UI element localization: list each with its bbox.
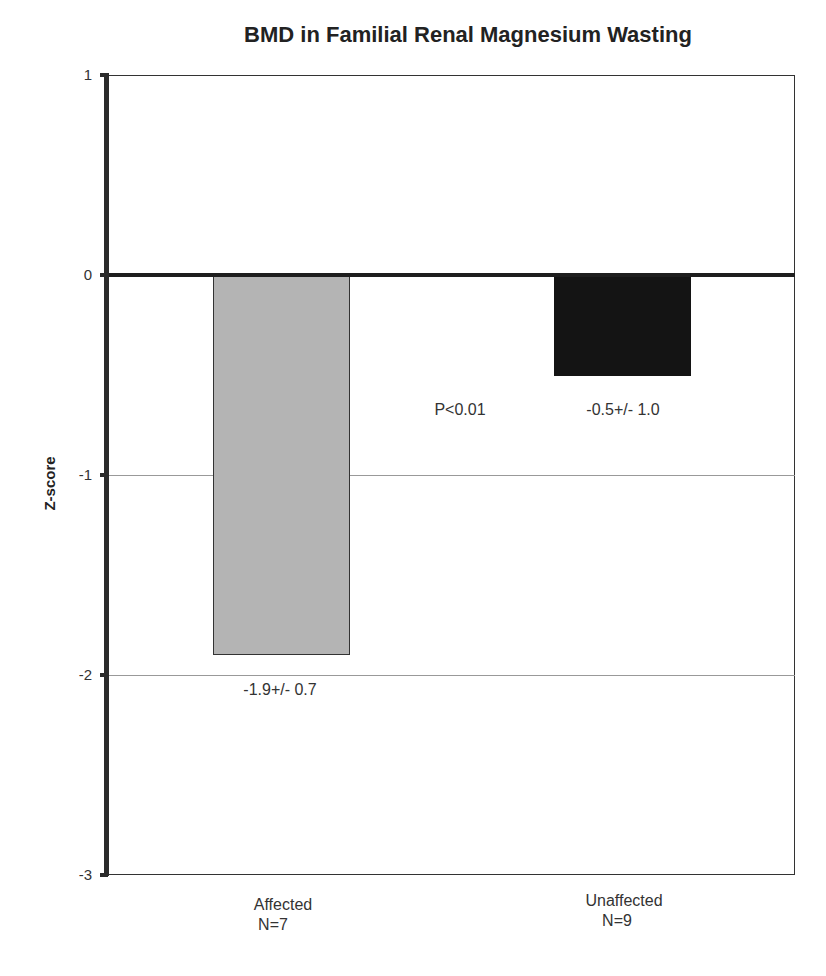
zero-line	[104, 273, 795, 277]
y-tick	[100, 73, 108, 77]
value-label-affected: -1.9+/- 0.7	[200, 681, 360, 699]
p-value-annotation: P<0.01	[410, 401, 510, 419]
category-n-unaffected: N=9	[567, 912, 667, 930]
chart-title: BMD in Familial Renal Magnesium Wasting	[110, 22, 826, 48]
gridline-minus-2	[108, 675, 795, 676]
y-tick-label: -1	[62, 466, 92, 483]
value-label-unaffected: -0.5+/- 1.0	[548, 401, 698, 419]
y-tick	[100, 273, 108, 277]
bar-unaffected	[554, 275, 691, 376]
y-axis-title: Z-score	[41, 456, 58, 510]
category-label-unaffected: Unaffected	[559, 892, 689, 910]
y-tick-label: 1	[62, 66, 92, 83]
bar-affected	[213, 275, 350, 655]
y-tick-label: -2	[62, 666, 92, 683]
y-tick-label: 0	[62, 266, 92, 283]
y-tick	[100, 473, 108, 477]
category-label-affected: Affected	[218, 896, 348, 914]
y-tick	[100, 673, 108, 677]
category-n-affected: N=7	[218, 916, 328, 934]
y-tick	[100, 873, 108, 877]
gridline-minus-1	[108, 475, 795, 476]
y-tick-label: -3	[62, 866, 92, 883]
